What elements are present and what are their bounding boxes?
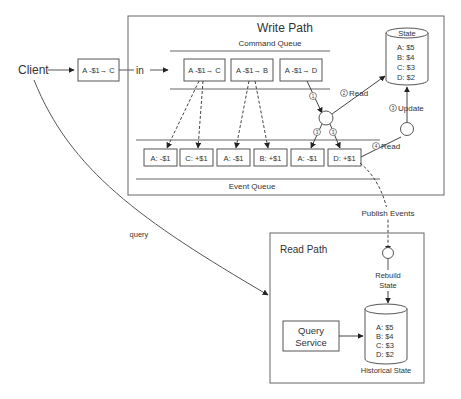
state-value-a: A: $5 <box>397 43 415 52</box>
read-path-title: Read Path <box>280 244 327 255</box>
history-value-a: A: $5 <box>376 323 394 332</box>
command-to-event-arrows <box>167 81 268 148</box>
event-boxes: A: -$1 C: +$1 A: -$1 B: +$1 A: -$1 D: +$… <box>144 149 361 166</box>
history-value-b: B: $4 <box>376 332 394 341</box>
state-database: State A: $5 B: $4 C: $3 D: $2 <box>386 28 428 85</box>
event-text-1: A: -$1 <box>150 154 170 163</box>
publish-events-label: Publish Events <box>362 209 415 218</box>
history-value-d: D: $2 <box>376 350 394 359</box>
state-title: State <box>398 29 416 38</box>
command-text-1: A -$1→ C <box>188 66 221 75</box>
command-text-3: A -$1→ D <box>285 66 318 75</box>
state-value-b: B: $4 <box>397 53 415 62</box>
client-command-text: A -$1→ C <box>82 66 115 75</box>
client-label: Client <box>18 63 49 77</box>
step2-label: Read <box>349 89 368 98</box>
rebuild-node <box>383 248 394 259</box>
event-text-2: C: +$1 <box>185 154 207 163</box>
historical-state-title: Historical State <box>361 366 411 375</box>
command-text-2: A -$1→ B <box>236 66 268 75</box>
state-value-c: C: $3 <box>397 63 415 72</box>
step3a-arrow <box>311 124 322 148</box>
event-sourcing-diagram: Client A -$1→ C in Write Path Command Qu… <box>0 0 461 399</box>
event-text-5: A: -$1 <box>297 154 317 163</box>
event-queue-label: Event Queue <box>229 182 276 191</box>
update-label: Update <box>398 104 424 113</box>
rebuild-label-2: State <box>379 281 397 290</box>
historical-state-database: A: $5 B: $4 C: $3 D: $2 Historical State <box>361 304 411 375</box>
query-service-label-2: Service <box>295 337 327 348</box>
query-label: query <box>130 230 149 239</box>
processor-node <box>319 111 333 125</box>
rebuild-label-1: Rebuild <box>375 271 400 280</box>
write-path-title: Write Path <box>257 21 313 35</box>
history-value-c: C: $3 <box>376 341 394 350</box>
event-text-4: B: +$1 <box>260 154 282 163</box>
state-value-d: D: $2 <box>397 73 415 82</box>
step3b-arrow <box>330 124 340 148</box>
query-service-label-1: Query <box>298 325 324 336</box>
command-queue-label: Command Queue <box>238 39 302 48</box>
update-node <box>401 123 414 136</box>
step4-label: Read <box>381 142 400 151</box>
event-text-6: D: +$1 <box>333 154 355 163</box>
in-label: in <box>136 65 144 76</box>
event-text-3: A: -$1 <box>223 154 243 163</box>
